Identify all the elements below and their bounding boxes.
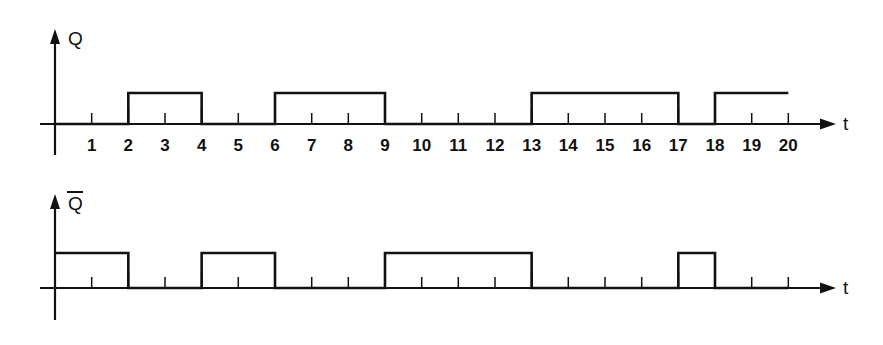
tick-label: 1 xyxy=(87,136,96,155)
qbar-x-axis-arrow-icon xyxy=(820,283,836,294)
tick-label: 15 xyxy=(596,136,615,155)
tick-label: 9 xyxy=(380,136,389,155)
q-x-axis-arrow-icon xyxy=(820,119,836,130)
tick-label: 14 xyxy=(559,136,578,155)
tick-label: 4 xyxy=(197,136,207,155)
q-ticks xyxy=(92,108,789,124)
tick-label: 8 xyxy=(344,136,353,155)
chart-q: Q t xyxy=(40,28,849,155)
tick-label: 6 xyxy=(270,136,279,155)
q-tick-labels: 1 2 3 4 5 6 7 8 9 10 11 12 13 14 15 16 1… xyxy=(87,136,798,155)
qbar-x-axis-label: t xyxy=(843,277,849,298)
tick-label: 12 xyxy=(486,136,505,155)
tick-label: 2 xyxy=(124,136,133,155)
tick-label: 16 xyxy=(632,136,651,155)
qbar-ticks xyxy=(92,272,789,288)
qbar-axis-label-group: Q xyxy=(67,192,83,214)
tick-label: 20 xyxy=(779,136,798,155)
chart-q-bar: Q t xyxy=(40,192,849,320)
qbar-y-axis xyxy=(50,194,60,320)
tick-label: 3 xyxy=(160,136,169,155)
tick-label: 17 xyxy=(669,136,688,155)
q-y-axis-arrow-icon xyxy=(50,29,60,44)
q-y-axis xyxy=(50,29,60,155)
qbar-axis-label: Q xyxy=(68,193,83,214)
q-axis-label: Q xyxy=(68,28,83,49)
tick-label: 18 xyxy=(706,136,725,155)
timing-diagram-figure: Q t xyxy=(0,0,883,345)
tick-label: 11 xyxy=(449,136,467,155)
qbar-y-axis-arrow-icon xyxy=(50,194,60,209)
tick-label: 5 xyxy=(234,136,243,155)
tick-label: 13 xyxy=(522,136,541,155)
tick-label: 7 xyxy=(307,136,316,155)
q-x-axis-label: t xyxy=(843,113,849,134)
tick-label: 19 xyxy=(742,136,761,155)
tick-label: 10 xyxy=(412,136,431,155)
